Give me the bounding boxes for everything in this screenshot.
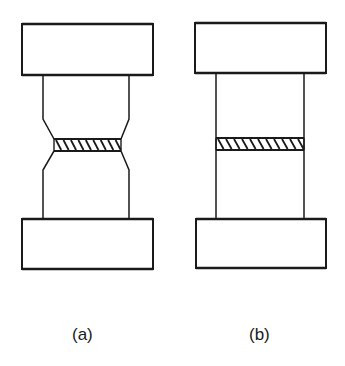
hatch-line: [71, 140, 76, 150]
hatch-line: [226, 139, 232, 149]
panel-a-necked-specimen: [22, 24, 153, 269]
panel-b-straight-specimen: [195, 23, 326, 268]
panel-a-label: (a): [72, 326, 93, 343]
top-platen-b: [195, 23, 326, 73]
hatch-line: [101, 140, 106, 150]
hatch-line: [108, 140, 113, 150]
specimen-a-upper-right-profile: [121, 75, 129, 139]
specimen-diagram: [0, 0, 345, 366]
hatch-line: [78, 140, 83, 150]
hatch-line: [93, 140, 98, 150]
specimen-a-lower-left-profile: [43, 151, 54, 219]
panel-b-label: (b): [249, 326, 270, 343]
hatch-line: [242, 139, 248, 149]
hatch-line: [218, 139, 224, 149]
hatch-line: [234, 139, 240, 149]
hatch-line: [63, 140, 68, 150]
top-platen-a: [22, 24, 153, 75]
hatch-line: [86, 140, 91, 150]
bottom-platen-a: [22, 219, 153, 269]
hatch-line: [258, 139, 264, 149]
bottom-platen-b: [196, 219, 326, 268]
hatch-line: [274, 139, 280, 149]
hatch-line: [290, 139, 296, 149]
hatch-line: [250, 139, 256, 149]
hatch-line: [116, 140, 121, 150]
hatch-line: [56, 140, 61, 150]
specimen-a-lower-right-profile: [121, 151, 129, 219]
specimen-a-upper-left-profile: [43, 75, 54, 139]
hatch-line: [298, 139, 304, 149]
bond-layer-a: [54, 139, 121, 151]
hatch-line: [266, 139, 272, 149]
hatch-line: [282, 139, 288, 149]
bond-layer-b: [216, 138, 304, 150]
